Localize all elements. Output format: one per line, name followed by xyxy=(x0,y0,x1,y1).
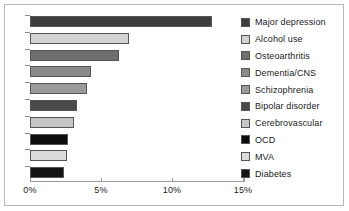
legend-item-osteoarthritis[interactable]: Osteoarthritis xyxy=(241,48,345,65)
legend-item-dementia-cns[interactable]: Dementia/CNS xyxy=(241,64,345,81)
x-axis-tick xyxy=(30,178,31,182)
x-axis-tick xyxy=(172,178,173,182)
legend-swatch-icon xyxy=(241,102,250,111)
legend-item-label: Schizophrenia xyxy=(255,85,313,95)
bar-row xyxy=(20,114,235,131)
bar-row xyxy=(20,147,235,164)
bar-diabetes xyxy=(30,167,64,178)
legend-item-major-depression[interactable]: Major depression xyxy=(241,14,345,31)
legend-item-schizophrenia[interactable]: Schizophrenia xyxy=(241,81,345,98)
legend-item-label: Dementia/CNS xyxy=(255,68,316,78)
bar-row xyxy=(20,13,235,30)
legend-item-mva[interactable]: MVA xyxy=(241,148,345,165)
bar-row xyxy=(20,131,235,148)
legend-item-alcohol-use[interactable]: Alcohol use xyxy=(241,31,345,48)
bar-cerebrovascular xyxy=(30,117,74,128)
legend-swatch-icon xyxy=(241,169,250,178)
legend-item-label: MVA xyxy=(255,152,274,162)
x-axis-label: 15% xyxy=(234,185,253,195)
bar-osteoarthritis xyxy=(30,50,119,61)
legend-item-label: Alcohol use xyxy=(255,34,303,44)
bar-row xyxy=(20,63,235,80)
legend-swatch-icon xyxy=(241,119,250,128)
bar-ocd xyxy=(30,134,68,145)
bar-row xyxy=(20,30,235,47)
bar-alcohol-use xyxy=(30,33,129,44)
chart-legend: Major depressionAlcohol useOsteoarthriti… xyxy=(241,14,345,182)
legend-item-label: Bipolar disorder xyxy=(255,101,320,111)
legend-item-diabetes[interactable]: Diabetes xyxy=(241,165,345,182)
legend-item-ocd[interactable]: OCD xyxy=(241,132,345,149)
legend-swatch-icon xyxy=(241,68,250,77)
legend-swatch-icon xyxy=(241,85,250,94)
bar-schizophrenia xyxy=(30,83,87,94)
x-axis-tick xyxy=(101,178,102,182)
bar-row xyxy=(20,80,235,97)
legend-item-label: OCD xyxy=(255,135,275,145)
plot-area xyxy=(20,13,235,181)
legend-swatch-icon xyxy=(241,35,250,44)
legend-item-label: Major depression xyxy=(255,17,326,27)
legend-swatch-icon xyxy=(241,51,250,60)
bar-dementia-cns xyxy=(30,66,91,77)
x-axis-label: 5% xyxy=(94,185,107,195)
legend-item-cerebrovascular[interactable]: Cerebrovascular xyxy=(241,115,345,132)
legend-item-label: Osteoarthritis xyxy=(255,51,310,61)
legend-item-label: Cerebrovascular xyxy=(255,118,323,128)
legend-item-label: Diabetes xyxy=(255,169,291,179)
x-axis-label: 0% xyxy=(23,185,36,195)
legend-swatch-icon xyxy=(241,135,250,144)
bar-row xyxy=(20,97,235,114)
legend-item-bipolar-disorder[interactable]: Bipolar disorder xyxy=(241,98,345,115)
bar-row xyxy=(20,164,235,181)
bar-row xyxy=(20,47,235,64)
x-axis-label: 10% xyxy=(163,185,182,195)
chart-figure: 0%5%10%15% Major depressionAlcohol useOs… xyxy=(0,0,349,211)
bar-major-depression xyxy=(30,16,212,27)
bar-bipolar-disorder xyxy=(30,100,77,111)
figure-inner: 0%5%10%15% Major depressionAlcohol useOs… xyxy=(5,5,343,205)
x-axis-line xyxy=(30,181,245,182)
bar-mva xyxy=(30,150,67,161)
legend-swatch-icon xyxy=(241,18,250,27)
legend-swatch-icon xyxy=(241,152,250,161)
